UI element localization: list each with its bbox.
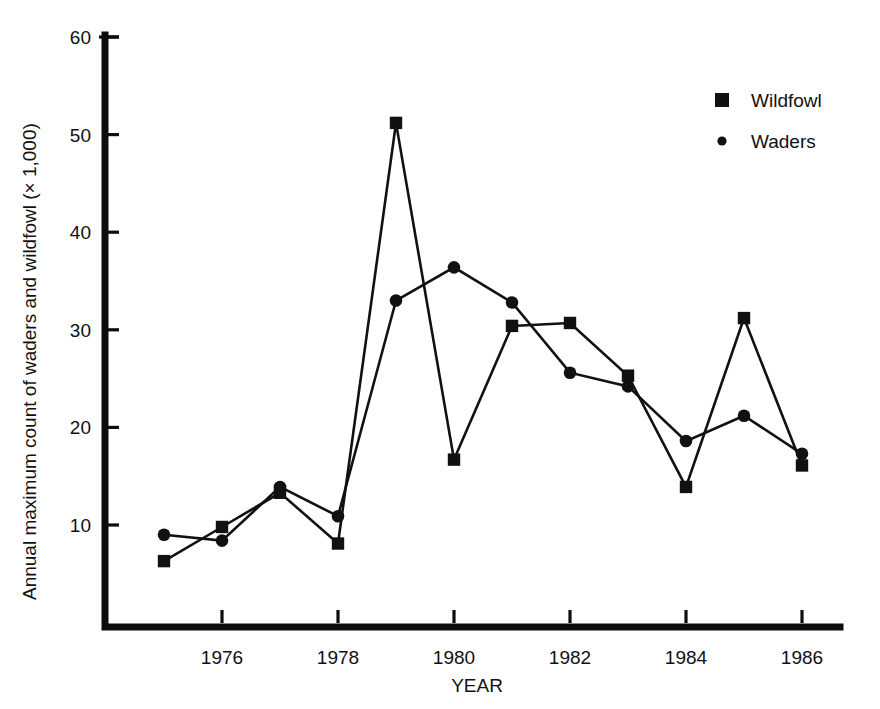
legend-label: Wildfowl [751, 90, 822, 111]
y-tick-labels: 102030405060 [70, 27, 91, 536]
data-series [158, 117, 809, 568]
marker-square [158, 555, 170, 567]
x-tick-label: 1980 [433, 647, 475, 668]
line-chart: 102030405060 197619781980198219841986 Wi… [0, 0, 880, 709]
x-tick-label: 1984 [665, 647, 708, 668]
marker-square [216, 521, 228, 533]
series-waders [158, 261, 809, 547]
marker-circle [564, 366, 577, 379]
marker-square [622, 369, 634, 381]
x-tick-label: 1976 [201, 647, 243, 668]
marker-circle [332, 510, 345, 523]
x-tick-label: 1978 [317, 647, 359, 668]
legend-marker-square [715, 93, 729, 107]
marker-square [738, 312, 750, 324]
marker-circle [680, 435, 693, 448]
marker-circle [622, 380, 635, 393]
legend-marker-circle [717, 136, 726, 145]
marker-circle [506, 296, 519, 309]
marker-circle [448, 261, 461, 274]
marker-square [390, 117, 402, 129]
y-tick-label: 20 [70, 417, 91, 438]
x-tick-label: 1986 [781, 647, 823, 668]
tick-marks [99, 37, 802, 623]
marker-square [796, 459, 808, 471]
x-tick-label: 1982 [549, 647, 591, 668]
marker-square [564, 317, 576, 329]
axes [105, 35, 840, 627]
y-tick-label: 60 [70, 27, 91, 48]
series-wildfowl [158, 117, 808, 568]
marker-square [680, 481, 692, 493]
legend-item-waders: Waders [717, 131, 815, 152]
y-tick-label: 30 [70, 320, 91, 341]
marker-square [448, 453, 460, 465]
marker-square [332, 537, 344, 549]
marker-circle [796, 447, 809, 460]
marker-circle [158, 528, 171, 541]
x-tick-labels: 197619781980198219841986 [201, 647, 823, 668]
marker-circle [216, 534, 229, 547]
legend-item-wildfowl: Wildfowl [715, 90, 822, 111]
y-tick-label: 40 [70, 222, 91, 243]
marker-circle [738, 409, 751, 422]
x-axis-title: YEAR [451, 675, 503, 696]
y-axis-title: Annual maximum count of waders and wildf… [19, 123, 40, 600]
chart-legend: WildfowlWaders [715, 90, 822, 152]
legend-label: Waders [751, 131, 816, 152]
marker-square [506, 320, 518, 332]
marker-circle [274, 481, 287, 494]
marker-circle [390, 294, 403, 307]
y-tick-label: 50 [70, 125, 91, 146]
chart-page: 102030405060 197619781980198219841986 Wi… [0, 0, 880, 709]
y-tick-label: 10 [70, 515, 91, 536]
